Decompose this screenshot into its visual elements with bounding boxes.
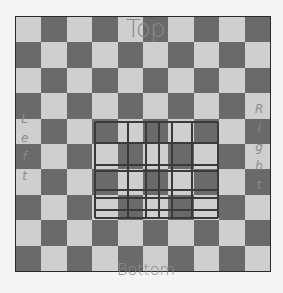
light-square — [219, 17, 244, 42]
light-square — [41, 42, 66, 67]
light-square — [16, 119, 41, 144]
dark-square — [67, 42, 92, 67]
right-label-char: t — [257, 176, 262, 195]
light-square — [168, 169, 193, 194]
light-square — [118, 169, 143, 194]
light-square — [92, 42, 117, 67]
dark-square — [143, 119, 168, 144]
dark-square — [168, 93, 193, 118]
dark-square — [92, 68, 117, 93]
light-square — [143, 195, 168, 220]
light-square — [16, 169, 41, 194]
dark-square — [16, 42, 41, 67]
light-square — [67, 119, 92, 144]
light-square — [219, 68, 244, 93]
dark-square — [92, 169, 117, 194]
light-square — [168, 17, 193, 42]
dark-square — [194, 68, 219, 93]
light-square — [194, 195, 219, 220]
dark-square — [245, 220, 270, 245]
dark-square — [16, 93, 41, 118]
dark-square — [41, 119, 66, 144]
dark-square — [67, 144, 92, 169]
light-square — [245, 42, 270, 67]
dark-square — [194, 220, 219, 245]
dark-square — [118, 93, 143, 118]
light-square — [16, 220, 41, 245]
left-label-char: t — [22, 167, 27, 186]
light-square — [67, 169, 92, 194]
right-label: R i g h t — [255, 100, 263, 195]
dark-square — [41, 169, 66, 194]
light-square — [194, 246, 219, 271]
right-label-char: i — [258, 119, 261, 138]
dark-square — [67, 195, 92, 220]
light-square — [194, 93, 219, 118]
dark-square — [92, 17, 117, 42]
light-square — [92, 144, 117, 169]
dark-square — [143, 220, 168, 245]
dark-square — [219, 144, 244, 169]
dark-square — [41, 220, 66, 245]
light-square — [41, 93, 66, 118]
light-square — [118, 119, 143, 144]
light-square — [16, 17, 41, 42]
dark-square — [143, 169, 168, 194]
dark-square — [194, 17, 219, 42]
dark-square — [16, 144, 41, 169]
light-square — [41, 195, 66, 220]
light-square — [92, 93, 117, 118]
dark-square — [16, 195, 41, 220]
left-label-char: L — [21, 110, 28, 129]
light-square — [118, 68, 143, 93]
dark-square — [245, 17, 270, 42]
light-square — [67, 68, 92, 93]
light-square — [245, 246, 270, 271]
light-square — [194, 144, 219, 169]
dark-square — [245, 68, 270, 93]
light-square — [143, 144, 168, 169]
dark-square — [168, 144, 193, 169]
bottom-label: Bottom — [117, 260, 175, 279]
dark-square — [67, 93, 92, 118]
light-square — [118, 220, 143, 245]
light-square — [143, 42, 168, 67]
right-label-char: g — [255, 138, 263, 157]
left-label-char: f — [23, 148, 27, 167]
light-square — [168, 220, 193, 245]
light-square — [41, 144, 66, 169]
dark-square — [118, 195, 143, 220]
light-square — [92, 195, 117, 220]
dark-square — [219, 93, 244, 118]
dark-square — [168, 195, 193, 220]
dark-square — [118, 42, 143, 67]
right-label-char: R — [255, 100, 263, 119]
light-square — [168, 68, 193, 93]
dark-square — [194, 169, 219, 194]
checkerboard — [15, 16, 271, 272]
light-square — [219, 119, 244, 144]
dark-square — [67, 246, 92, 271]
dark-square — [168, 42, 193, 67]
dark-square — [41, 68, 66, 93]
dark-square — [143, 68, 168, 93]
dark-square — [219, 42, 244, 67]
light-square — [219, 169, 244, 194]
light-square — [143, 93, 168, 118]
dark-square — [194, 119, 219, 144]
dark-square — [118, 144, 143, 169]
dark-square — [219, 195, 244, 220]
light-square — [16, 68, 41, 93]
dark-square — [16, 246, 41, 271]
dark-square — [92, 119, 117, 144]
light-square — [219, 220, 244, 245]
light-square — [92, 246, 117, 271]
dark-square — [92, 220, 117, 245]
light-square — [67, 17, 92, 42]
dark-square — [219, 246, 244, 271]
light-square — [67, 220, 92, 245]
left-label: L e f t — [21, 110, 28, 186]
left-label-char: e — [21, 129, 28, 148]
light-square — [41, 246, 66, 271]
light-square — [245, 195, 270, 220]
